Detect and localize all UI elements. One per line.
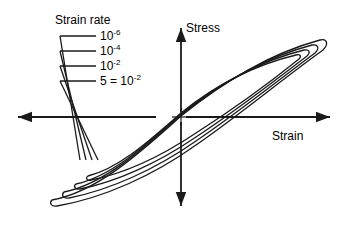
- legend-entry-2-base: 10: [100, 44, 113, 58]
- axis-x-label: Strain: [272, 130, 303, 142]
- legend-entry-3: 10-2: [100, 60, 120, 72]
- legend-entry-1-exponent: -6: [113, 28, 120, 37]
- legend-entry-1: 10-6: [100, 30, 120, 42]
- leader-tie-1: [60, 36, 80, 160]
- loop-curve-4: [51, 40, 327, 207]
- legend-entry-4-prefix: 5 =: [100, 74, 120, 88]
- legend-entry-2-exponent: -4: [113, 43, 120, 52]
- legend-entry-3-base: 10: [100, 59, 113, 73]
- legend-title: Strain rate: [55, 14, 110, 26]
- legend-entry-2: 10-4: [100, 45, 120, 57]
- hysteresis-loops: [51, 40, 327, 207]
- legend-entry-4-exponent: -2: [134, 73, 141, 82]
- legend-entry-4-base: 10: [120, 74, 133, 88]
- figure-root: Strain rate Stress Strain 10-6 10-4 10-2…: [0, 0, 342, 228]
- axis-y-label: Stress: [186, 22, 220, 34]
- hysteresis-plot: [0, 0, 342, 228]
- leader-tie-4: [60, 81, 98, 160]
- legend-leader-lines: [60, 36, 98, 160]
- legend-entry-1-base: 10: [100, 29, 113, 43]
- legend-entry-3-exponent: -2: [113, 58, 120, 67]
- legend-entry-4: 5 = 10-2: [100, 75, 141, 87]
